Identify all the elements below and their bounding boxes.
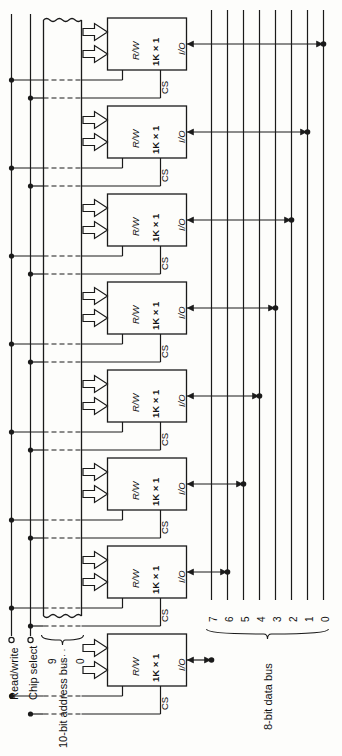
chip-cs-label: CS [159,345,170,358]
memory-chip-box [108,18,187,70]
chip-io-label: I/O [176,570,187,583]
data-bus-line-label: 2 [288,616,299,622]
chip-cs-label: CS [159,257,170,270]
chip-cs-label: CS [159,169,170,182]
chip-rw-label: R/W [130,42,141,60]
memory-array-diagram: R/W1K × 1I/OCSR/W1K × 1I/OCSR/W1K × 1I/O… [0,0,342,756]
data-bus-line-label: 4 [256,616,267,622]
data-bus-line-label: 3 [272,616,283,622]
chip-size-label: 1K × 1 [150,566,161,594]
chip-rw-label: R/W [130,570,141,588]
chip-size-label: 1K × 1 [150,214,161,242]
chip-cs-label: CS [159,521,170,534]
chip-rw-label: R/W [130,130,141,148]
chip-rw-label: R/W [130,394,141,412]
chip-rw-label: R/W [130,306,141,324]
data-bus-brace [207,629,329,639]
chip-cs-label: CS [159,433,170,446]
memory-chip-box [108,282,187,334]
chip-cs-label: CS [159,81,170,94]
chip-io-label: I/O [176,306,187,319]
chip-io-label: I/O [176,130,187,143]
data-bus-line-label: 6 [224,616,235,622]
address-lsb-label: 0 [75,658,86,664]
data-bus-line-label: 5 [240,616,251,622]
chip-rw-label: R/W [130,218,141,236]
chip-io-label: I/O [176,394,187,407]
data-bus-line-label: 7 [208,616,219,622]
data-bus-label: 8-bit data bus [262,663,274,730]
address-bus-label: 10-bit address bus [57,658,69,749]
chip-size-label: 1K × 1 [150,654,161,682]
chip-cs-label: CS [159,697,170,710]
chip-rw-label: R/W [130,658,141,676]
chip-size-label: 1K × 1 [150,38,161,66]
data-bus-line-label: 0 [320,616,331,622]
chip-io-label: I/O [176,658,187,671]
data-bus-line-label: 1 [304,616,315,622]
read-write-terminal-label: Read/write [8,647,20,700]
chip-io-label: I/O [176,482,187,495]
memory-chip-box [108,194,187,246]
chip-size-label: 1K × 1 [150,390,161,418]
chip-size-label: 1K × 1 [150,302,161,330]
memory-chip-box [108,458,187,510]
memory-chip-box [108,370,187,422]
memory-chip-box [108,106,187,158]
chip-size-label: 1K × 1 [150,126,161,154]
diagram-wires [0,0,342,756]
chip-cs-label: CS [159,609,170,622]
chip-size-label: 1K × 1 [150,478,161,506]
chip-select-terminal-label: Chip select [27,646,39,700]
chip-rw-label: R/W [130,482,141,500]
memory-chip-box [108,546,187,598]
address-bus-brace [42,635,84,645]
memory-chip-box [108,634,187,686]
chip-io-label: I/O [176,42,187,55]
address-msb-label: 9 [47,658,58,664]
chip-io-label: I/O [176,218,187,231]
